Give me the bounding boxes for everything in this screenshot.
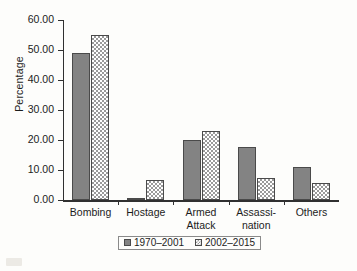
y-tick-6: 60.00: [58, 20, 63, 21]
y-tick-0: 0.00: [58, 200, 63, 201]
bar-chart-figure: Percentage 0.0010.0020.0030.0040.0050.00…: [0, 0, 357, 271]
bar-series-b: [312, 183, 330, 200]
x-tick: [284, 201, 285, 205]
y-tick-label: 20.00: [28, 133, 54, 146]
bar-series-a: [238, 147, 256, 200]
y-tick-2: 20.00: [58, 140, 63, 141]
y-tick-1: 10.00: [58, 170, 63, 171]
plot-area: 0.0010.0020.0030.0040.0050.0060.00 Bombi…: [63, 20, 339, 201]
bar-series-b: [257, 178, 275, 200]
bar-series-a: [127, 198, 145, 200]
x-tick: [118, 201, 119, 205]
x-category-label: Others: [284, 206, 339, 219]
y-tick-3: 30.00: [58, 110, 63, 111]
y-tick-label: 0.00: [34, 193, 54, 206]
legend-swatch-icon: [195, 239, 202, 246]
bar-series-a: [183, 140, 201, 200]
y-tick-5: 50.00: [58, 50, 63, 51]
y-tick-4: 40.00: [58, 80, 63, 81]
bar-series-b: [202, 131, 220, 200]
x-category-label: Armed Attack: [173, 206, 228, 231]
legend-item: 1970–2001: [124, 237, 184, 248]
y-axis-line: [63, 20, 64, 201]
legend-label: 2002–2015: [205, 237, 255, 248]
bar-series-b: [146, 180, 164, 200]
legend-label: 1970–2001: [134, 237, 184, 248]
chart-legend: 1970–20012002–2015: [118, 236, 261, 250]
scan-artifact: [6, 258, 22, 266]
legend-swatch-icon: [124, 239, 131, 246]
y-tick-label: 40.00: [28, 73, 54, 86]
bar-series-b: [91, 35, 109, 200]
y-tick-label: 60.00: [28, 13, 54, 26]
y-tick-label: 50.00: [28, 43, 54, 56]
x-tick: [173, 201, 174, 205]
x-category-label: Assassi- nation: [229, 206, 284, 231]
legend-item: 2002–2015: [195, 237, 255, 248]
y-tick-label: 30.00: [28, 103, 54, 116]
x-category-label: Hostage: [118, 206, 173, 219]
bar-series-a: [293, 167, 311, 200]
x-tick: [229, 201, 230, 205]
x-category-label: Bombing: [63, 206, 118, 219]
bar-series-a: [72, 53, 90, 200]
y-axis-title: Percentage: [13, 29, 25, 139]
x-axis-line: [63, 200, 339, 202]
y-tick-label: 10.00: [28, 163, 54, 176]
